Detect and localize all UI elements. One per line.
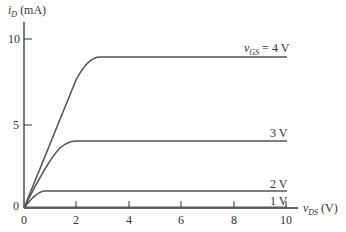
curve-vgs-2v bbox=[24, 191, 287, 208]
x-tick-label-10: 10 bbox=[280, 214, 292, 226]
y-axis-sub: D bbox=[11, 10, 17, 19]
x-axis-label: vDS (V) bbox=[303, 202, 338, 217]
x-tick-label-4: 4 bbox=[126, 214, 132, 226]
x-axis-unit: (V) bbox=[321, 201, 338, 215]
x-tick-label-8: 8 bbox=[231, 214, 237, 226]
curve-vgs-4v bbox=[24, 57, 287, 208]
y-tick-label-10: 10 bbox=[8, 33, 20, 45]
x-axis-sub: DS bbox=[308, 208, 318, 217]
curve-label-3v: 3 V bbox=[270, 127, 287, 139]
y-tick-label-5: 5 bbox=[13, 119, 19, 131]
y-axis-unit: (mA) bbox=[20, 3, 46, 17]
curve-4-sub: GS bbox=[249, 48, 259, 57]
y-tick-label-0: 0 bbox=[13, 200, 19, 212]
curve-vgs-3v bbox=[24, 141, 287, 208]
curve-4-value: = 4 V bbox=[259, 41, 289, 55]
curve-label-4v: vGS = 4 V bbox=[244, 42, 289, 57]
x-tick-label-2: 2 bbox=[73, 214, 79, 226]
curve-label-2v: 2 V bbox=[270, 178, 287, 190]
y-axis-label: iD (mA) bbox=[8, 4, 46, 19]
x-tick-label-0: 0 bbox=[21, 214, 27, 226]
curve-label-1v: 1 V bbox=[270, 195, 287, 207]
x-tick-label-6: 6 bbox=[178, 214, 184, 226]
chart-canvas bbox=[0, 0, 346, 232]
